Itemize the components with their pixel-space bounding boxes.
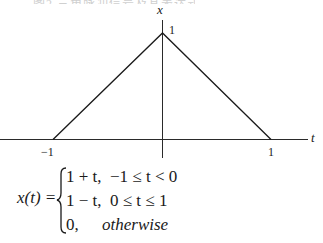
case-1-condition: −1 ≤ t < 0: [110, 168, 177, 185]
case-1-value: 1 + t,: [66, 168, 102, 185]
case-2-condition: 0 ≤ t ≤ 1: [110, 192, 167, 209]
case-row-3: 0, otherwise: [66, 216, 79, 233]
case-row-1: 1 + t, −1 ≤ t < 0: [66, 168, 102, 185]
case-3-condition: otherwise: [102, 216, 168, 233]
case-3-value: 0,: [66, 216, 79, 233]
case-row-2: 1 − t, 0 ≤ t ≤ 1: [66, 192, 102, 209]
piecewise-formula: x(t) = 1 + t, −1 ≤ t < 0 1 − t, 0 ≤ t ≤ …: [0, 0, 323, 243]
case-2-value: 1 − t,: [66, 192, 102, 209]
